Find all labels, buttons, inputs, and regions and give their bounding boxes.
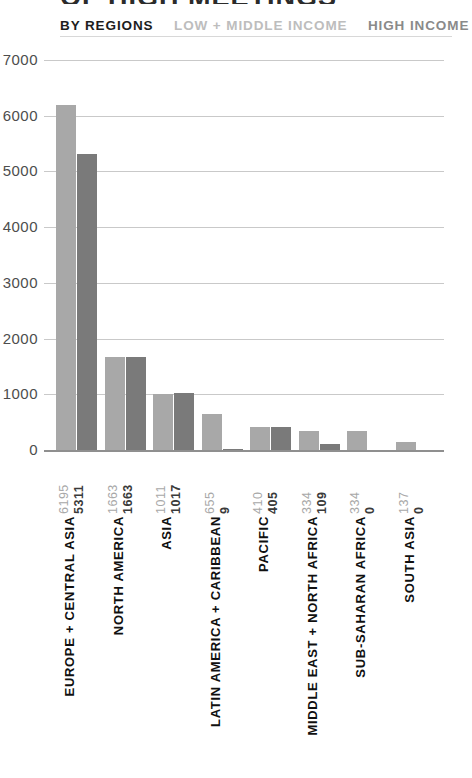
chart-plot-area: 70006000500040003000200010000 bbox=[0, 60, 472, 450]
bar-low-middle-income bbox=[153, 394, 173, 450]
y-axis-tick-label: 5000 bbox=[0, 162, 38, 179]
legend-divider bbox=[60, 36, 452, 37]
bar-high-income bbox=[271, 427, 291, 450]
chart-legend: BY REGIONS LOW + MIDDLE INCOME HIGH INCO… bbox=[60, 16, 472, 35]
page-title: OF HIGH MEETINGS bbox=[60, 0, 472, 4]
y-axis-tick-label: 1000 bbox=[0, 385, 38, 402]
gridline bbox=[44, 339, 444, 340]
bar-value-labels: 6195531116631663101110176559410405334109… bbox=[0, 452, 472, 514]
legend-item-high-income: HIGH INCOME bbox=[368, 16, 469, 35]
category-label: NORTH AMERICA bbox=[111, 516, 127, 764]
value-label-high-income: 1017 bbox=[169, 452, 183, 514]
gridline bbox=[44, 171, 444, 172]
bar-low-middle-income bbox=[202, 414, 222, 450]
bar-low-middle-income bbox=[250, 427, 270, 450]
y-axis-tick-label: 7000 bbox=[0, 51, 38, 68]
value-label-low-middle-income: 137 bbox=[397, 452, 411, 514]
category-label: SUB-SAHARAN AFRICA bbox=[353, 516, 369, 764]
value-label-low-middle-income: 1663 bbox=[106, 452, 120, 514]
value-label-high-income: 9 bbox=[218, 452, 232, 514]
value-label-low-middle-income: 410 bbox=[251, 452, 265, 514]
value-label-low-middle-income: 334 bbox=[300, 452, 314, 514]
value-label-high-income: 5311 bbox=[72, 452, 86, 514]
bar-high-income bbox=[174, 393, 194, 450]
value-label-low-middle-income: 6195 bbox=[57, 452, 71, 514]
value-label-high-income: 1663 bbox=[121, 452, 135, 514]
legend-item-low-middle-income: LOW + MIDDLE INCOME bbox=[174, 16, 347, 35]
y-axis-tick-label: 3000 bbox=[0, 274, 38, 291]
bar-low-middle-income bbox=[396, 442, 416, 450]
value-label-high-income: 109 bbox=[315, 452, 329, 514]
category-label: ASIA bbox=[159, 516, 175, 764]
value-label-low-middle-income: 334 bbox=[348, 452, 362, 514]
bar-high-income bbox=[126, 357, 146, 450]
value-label-high-income: 0 bbox=[412, 452, 426, 514]
bar-low-middle-income bbox=[105, 357, 125, 450]
y-axis-tick-label: 2000 bbox=[0, 330, 38, 347]
gridline bbox=[44, 227, 444, 228]
category-label: SOUTH ASIA bbox=[402, 516, 418, 764]
y-axis-tick-label: 4000 bbox=[0, 218, 38, 235]
bar-low-middle-income bbox=[347, 431, 367, 450]
gridline bbox=[44, 116, 444, 117]
bar-low-middle-income bbox=[299, 431, 319, 450]
category-label: EUROPE + CENTRAL ASIA bbox=[62, 516, 78, 764]
y-axis-tick-label: 6000 bbox=[0, 107, 38, 124]
category-axis-labels: EUROPE + CENTRAL ASIANORTH AMERICAASIALA… bbox=[0, 516, 472, 766]
category-label: LATIN AMERICA + CARIBBEAN bbox=[208, 516, 224, 764]
value-label-low-middle-income: 1011 bbox=[154, 452, 168, 514]
category-label: MIDDLE EAST + NORTH AFRICA bbox=[305, 516, 321, 764]
legend-item-by-regions: BY REGIONS bbox=[60, 16, 154, 35]
value-label-low-middle-income: 655 bbox=[203, 452, 217, 514]
category-label: PACIFIC bbox=[256, 516, 272, 764]
gridline bbox=[44, 283, 444, 284]
gridline bbox=[44, 60, 444, 61]
value-label-high-income: 0 bbox=[363, 452, 377, 514]
bar-high-income bbox=[77, 154, 97, 450]
value-label-high-income: 405 bbox=[266, 452, 280, 514]
bar-low-middle-income bbox=[56, 105, 76, 450]
